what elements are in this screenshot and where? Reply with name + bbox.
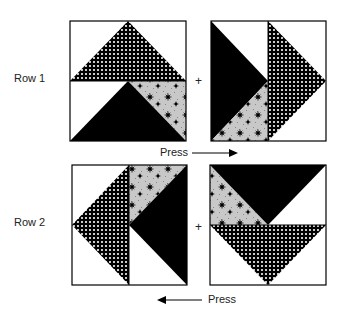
row1-press-arrow-icon xyxy=(192,149,238,157)
row1-label: Row 1 xyxy=(14,72,45,84)
row2-press-label: Press xyxy=(208,293,236,305)
row1-block-left xyxy=(70,21,186,141)
row1-block-right xyxy=(211,21,326,141)
row1-plus: + xyxy=(195,74,202,88)
quilt-diagram xyxy=(0,0,342,316)
row1-press-label: Press xyxy=(160,146,188,158)
row2-block-right xyxy=(210,165,326,285)
row2-block-left xyxy=(72,165,187,285)
row2-press-arrow-icon xyxy=(157,296,202,304)
row2-plus: + xyxy=(195,220,202,234)
row2-label: Row 2 xyxy=(14,216,45,228)
